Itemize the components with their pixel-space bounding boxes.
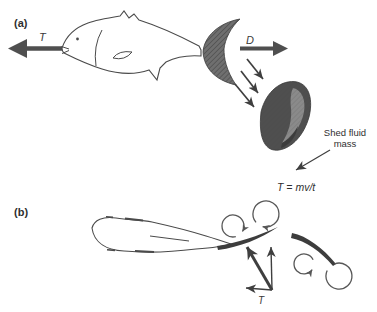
momentum-equation: T = mv/t (277, 181, 316, 193)
shed-flow-arrow-3 (235, 84, 254, 107)
drag-label: D (246, 34, 254, 46)
normal-force-vector (247, 247, 272, 290)
thrust-vector-label: T (258, 295, 265, 306)
force-vectors (246, 247, 272, 290)
shed-fluid-caption-line2: mass (334, 138, 357, 149)
shed-flow-arrows (235, 59, 263, 107)
shed-mass-hatch (260, 82, 310, 151)
shed-fluid-pointer-arrow (296, 150, 330, 170)
vortex-circle-small (294, 254, 313, 274)
fish-outline (62, 11, 202, 80)
fish-body (62, 11, 201, 80)
vortex-circle-large (326, 263, 352, 289)
drag-arrowhead-icon (273, 41, 288, 56)
shed-tail-blade (291, 233, 336, 266)
thrust-arrowhead-icon (8, 39, 27, 58)
thrust-label: T (39, 31, 47, 43)
caudal-fin-hatch (203, 19, 240, 85)
thrust-arrow (8, 39, 62, 58)
body-profile (92, 217, 231, 252)
body-head-bottom-mark (107, 250, 115, 251)
thrust-component-vector (246, 288, 272, 290)
vortex-circle-right (253, 201, 279, 227)
body-ventral-edge-mark (135, 251, 154, 252)
fish-eye (76, 38, 79, 41)
shed-flow-arrow-1 (247, 59, 263, 79)
panel-b-label: (b) (14, 206, 28, 218)
body-head-top-mark (106, 217, 113, 218)
shed-fluid-caption-line1: Shed fluid (324, 127, 366, 138)
body-profile-outline (92, 217, 231, 252)
vortex-circle-left (222, 215, 244, 237)
lateral-force-vector (271, 247, 272, 290)
fish-thrust-diagram: (a) T D Shed fluid mass T = m (0, 0, 377, 312)
shed-fluid-mass (260, 82, 310, 151)
figure-canvas: (a) T D Shed fluid mass T = m (0, 0, 377, 312)
tail-blade (217, 227, 278, 250)
panel-a-label: (a) (14, 17, 28, 29)
shed-flow-arrow-2 (241, 71, 258, 93)
caudal-fin (203, 19, 240, 85)
